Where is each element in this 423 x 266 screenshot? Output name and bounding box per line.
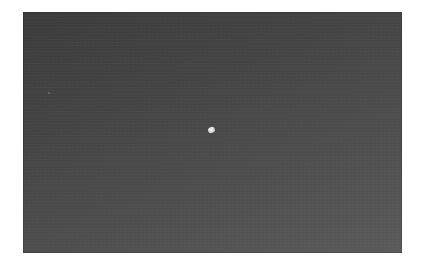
faint-speck xyxy=(48,92,50,94)
photo-frame xyxy=(23,12,402,253)
